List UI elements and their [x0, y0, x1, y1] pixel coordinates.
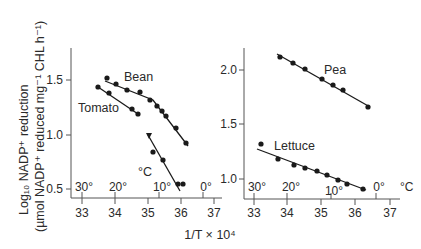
right-xtick: 36 — [348, 206, 362, 220]
right-ytick: 2.0 — [220, 63, 237, 77]
degc-label-right: °C — [400, 180, 414, 194]
pea-label: Pea — [324, 63, 346, 77]
left-temp-label: 10° — [153, 180, 171, 194]
right-xtick: 33 — [247, 206, 261, 220]
left-panel: 1.5 1.0 0.5 33 34 35 36 37 30° 20° 10° 0… — [46, 48, 222, 220]
left-ytick: 0.5 — [46, 182, 63, 196]
tomato-label: Tomato — [78, 101, 119, 115]
left-temp-label: 20° — [109, 180, 127, 194]
degc-label-left: °C — [138, 165, 152, 179]
left-xtick: 36 — [174, 206, 188, 220]
right-temp-label: 20° — [282, 180, 300, 194]
left-xtick: 33 — [75, 206, 89, 220]
left-ytick: 1.0 — [46, 128, 63, 142]
right-temp-label: 30° — [248, 180, 266, 194]
right-ytick: 1.0 — [220, 172, 237, 186]
right-xtick: 34 — [280, 206, 294, 220]
y-axis-label-line1: Log₁₀ NADP⁺ reduction — [17, 85, 31, 215]
chart-figure: Log₁₀ NADP⁺ reduction (µmol NADP⁺ reduce… — [0, 0, 421, 249]
right-xtick: 35 — [314, 206, 328, 220]
x-axis-label: 1/T × 10⁴ — [184, 228, 235, 242]
right-ytick: 1.5 — [220, 117, 237, 131]
right-xtick: 37 — [383, 206, 397, 220]
y-axis-label-line2: (µmol NADP⁺ reduced mg⁻¹ CHL h⁻¹) — [33, 21, 47, 232]
y-axis-label: Log₁₀ NADP⁺ reduction (µmol NADP⁺ reduce… — [17, 21, 47, 232]
left-xtick: 37 — [207, 206, 221, 220]
lettuce-label: Lettuce — [274, 139, 315, 153]
left-ytick: 1.5 — [46, 73, 63, 87]
right-panel: 2.0 1.5 1.0 33 34 35 36 37 30° 20° 10° 0… — [220, 48, 413, 220]
bean-label: Bean — [124, 70, 153, 84]
left-temp-label: 30° — [75, 180, 93, 194]
left-xtick: 35 — [141, 206, 155, 220]
left-temp-label: 0° — [200, 180, 212, 194]
right-temp-label: 10° — [325, 184, 343, 198]
left-xtick: 34 — [108, 206, 122, 220]
right-temp-label: 0° — [373, 180, 385, 194]
